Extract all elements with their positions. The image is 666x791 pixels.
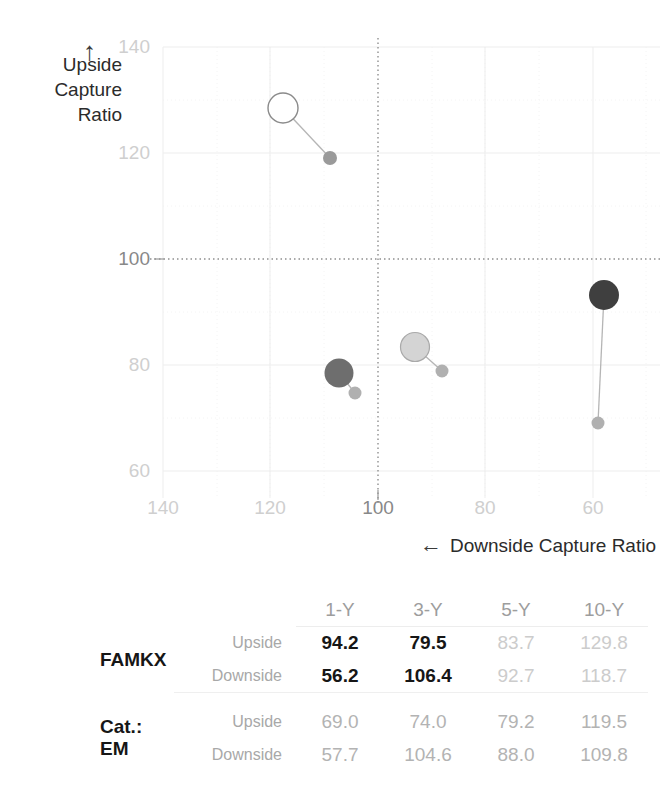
- xtick-60: 60: [577, 497, 609, 519]
- table-row-spacer: [62, 693, 648, 706]
- cell-famkx-upside-10y: 129.8: [560, 627, 648, 660]
- marker-cat-1y: [349, 387, 362, 400]
- column-header-10y: 10-Y: [560, 588, 648, 627]
- marker-fund-10y: [268, 93, 298, 123]
- marker-fund-3y: [589, 280, 619, 310]
- column-header-1y: 1-Y: [296, 588, 384, 627]
- cell-cat-downside-1y: 57.7: [296, 738, 384, 771]
- xtick-120: 120: [250, 497, 290, 519]
- capture-ratio-scatter-chart: ↑ Upside Capture Ratio 140 120 100 80 60…: [0, 0, 666, 570]
- table-row: Cat.: EM Upside 69.0 74.0 79.2 119.5: [62, 705, 648, 738]
- marker-cat-10y: [323, 151, 337, 165]
- table-header-row: 1-Y 3-Y 5-Y 10-Y: [62, 588, 648, 627]
- x-axis-label: Downside Capture Ratio: [450, 535, 656, 556]
- metric-label-upside-cat: Upside: [174, 705, 296, 738]
- marker-cat-3y: [592, 417, 605, 430]
- xtick-140: 140: [143, 497, 183, 519]
- cell-famkx-downside-5y: 92.7: [472, 660, 560, 693]
- metric-label-upside: Upside: [174, 627, 296, 660]
- cell-cat-upside-10y: 119.5: [560, 705, 648, 738]
- cell-famkx-downside-1y: 56.2: [296, 660, 384, 693]
- cell-cat-upside-5y: 79.2: [472, 705, 560, 738]
- major-gridlines: [163, 47, 660, 498]
- xtick-80: 80: [469, 497, 501, 519]
- marker-cat-5y: [436, 365, 449, 378]
- y-axis-label: Upside Capture Ratio: [10, 52, 122, 127]
- header-spacer-name: [62, 588, 174, 627]
- header-spacer-metric: [174, 588, 296, 627]
- cell-famkx-upside-3y: 79.5: [384, 627, 472, 660]
- marker-fund-1y: [325, 359, 354, 388]
- metric-label-downside: Downside: [174, 660, 296, 693]
- column-header-3y: 3-Y: [384, 588, 472, 627]
- xtick-100: 100: [358, 497, 398, 519]
- cell-famkx-downside-10y: 118.7: [560, 660, 648, 693]
- ytick-80: 80: [92, 354, 150, 376]
- ytick-120: 120: [92, 142, 150, 164]
- cell-cat-upside-1y: 69.0: [296, 705, 384, 738]
- ytick-140: 140: [92, 36, 150, 58]
- connector-3y: [598, 295, 604, 423]
- marker-fund-5y: [401, 333, 430, 362]
- x-axis-arrow-icon: ←: [420, 532, 450, 557]
- capture-ratio-table: 1-Y 3-Y 5-Y 10-Y FAMKX Upside 94.2 79.5 …: [0, 588, 666, 791]
- cell-cat-upside-3y: 74.0: [384, 705, 472, 738]
- x-axis-label-group: ←Downside Capture Ratio: [330, 534, 656, 557]
- metric-label-downside-cat: Downside: [174, 738, 296, 771]
- ytick-100: 100: [92, 248, 150, 270]
- cell-famkx-downside-3y: 106.4: [384, 660, 472, 693]
- data-table: 1-Y 3-Y 5-Y 10-Y FAMKX Upside 94.2 79.5 …: [62, 588, 648, 771]
- column-header-5y: 5-Y: [472, 588, 560, 627]
- cell-famkx-upside-1y: 94.2: [296, 627, 384, 660]
- row-label-cat-em: Cat.: EM: [62, 705, 174, 771]
- cell-cat-downside-5y: 88.0: [472, 738, 560, 771]
- ytick-60: 60: [92, 460, 150, 482]
- row-label-famkx: FAMKX: [62, 627, 174, 693]
- cell-famkx-upside-5y: 83.7: [472, 627, 560, 660]
- cell-cat-downside-10y: 109.8: [560, 738, 648, 771]
- cell-cat-downside-3y: 104.6: [384, 738, 472, 771]
- table-row: FAMKX Upside 94.2 79.5 83.7 129.8: [62, 627, 648, 660]
